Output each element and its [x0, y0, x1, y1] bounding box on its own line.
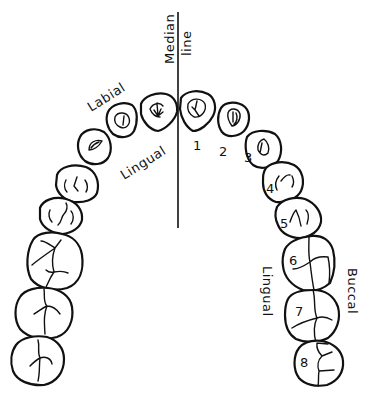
tooth-left-first-premolar — [56, 165, 98, 202]
tooth-7-second-molar — [285, 290, 339, 343]
tooth-left-canine — [78, 129, 111, 164]
tooth-number-2: 2 — [219, 144, 227, 159]
lingual-front-label: Lingual — [118, 143, 169, 183]
tooth-left-second-premolar — [40, 198, 82, 234]
median-line-label: line — [179, 31, 194, 56]
tooth-number-4: 4 — [266, 181, 274, 196]
tooth-left-lateral-incisor — [107, 103, 137, 137]
tooth-left-third-molar — [11, 336, 64, 385]
tooth-1-central-incisor — [180, 91, 215, 131]
tooth-number-1: 1 — [193, 138, 201, 153]
tooth-number-7: 7 — [295, 304, 303, 319]
tooth-number-6: 6 — [289, 253, 297, 268]
dental-arch-diagram: Median line Labial Lingual Lingual Bucca… — [0, 0, 374, 398]
tooth-number-3: 3 — [244, 150, 252, 165]
tooth-number-8: 8 — [300, 355, 308, 370]
tooth-2-lateral-incisor — [218, 103, 249, 136]
median-label: Median — [162, 14, 177, 64]
tooth-left-second-molar — [16, 288, 73, 339]
tooth-left-central-incisor — [141, 93, 177, 131]
tooth-left-first-molar — [27, 232, 82, 289]
buccal-label: Buccal — [345, 268, 360, 314]
tooth-number-5: 5 — [280, 216, 288, 231]
lingual-side-label: Lingual — [260, 266, 275, 317]
